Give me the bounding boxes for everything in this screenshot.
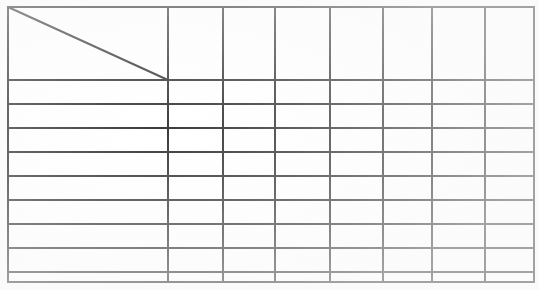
body-cell-r1-c8[interactable]: [485, 80, 534, 104]
body-cell-r3-c2[interactable]: [168, 128, 223, 152]
body-cell-r6-c2[interactable]: [168, 200, 223, 224]
corner-header-lower[interactable]: [8, 43, 168, 80]
body-cell-r8-c8[interactable]: [485, 248, 534, 272]
body-cell-r9-c1[interactable]: [8, 272, 168, 282]
body-cell-r9-c4[interactable]: [275, 272, 330, 282]
body-cell-r8-c1[interactable]: [8, 248, 168, 272]
body-cell-r8-c3[interactable]: [223, 248, 275, 272]
body-cell-r7-c2[interactable]: [168, 224, 223, 248]
body-cell-r5-c1[interactable]: [8, 176, 168, 200]
header-cell-1[interactable]: [168, 7, 223, 80]
body-cell-r8-c6[interactable]: [383, 248, 432, 272]
body-cell-r7-c7[interactable]: [432, 224, 485, 248]
body-cell-r3-c1[interactable]: [8, 128, 168, 152]
body-cell-r1-c6[interactable]: [383, 80, 432, 104]
header-cell-5[interactable]: [383, 7, 432, 80]
body-cell-r2-c7[interactable]: [432, 104, 485, 128]
body-cell-r9-c7[interactable]: [432, 272, 485, 282]
body-cell-r5-c3[interactable]: [223, 176, 275, 200]
body-cell-r4-c3[interactable]: [223, 152, 275, 176]
body-cell-r1-c1[interactable]: [8, 80, 168, 104]
body-cell-r7-c4[interactable]: [275, 224, 330, 248]
body-cell-r3-c6[interactable]: [383, 128, 432, 152]
body-cell-r3-c3[interactable]: [223, 128, 275, 152]
body-cell-r6-c4[interactable]: [275, 200, 330, 224]
body-cell-r8-c5[interactable]: [330, 248, 383, 272]
body-cell-r5-c7[interactable]: [432, 176, 485, 200]
body-cell-r2-c6[interactable]: [383, 104, 432, 128]
body-cell-r6-c1[interactable]: [8, 200, 168, 224]
body-cell-r9-c6[interactable]: [383, 272, 432, 282]
body-cell-r6-c7[interactable]: [432, 200, 485, 224]
body-cell-r6-c3[interactable]: [223, 200, 275, 224]
body-cell-r7-c3[interactable]: [223, 224, 275, 248]
body-cell-r1-c5[interactable]: [330, 80, 383, 104]
body-cell-r8-c4[interactable]: [275, 248, 330, 272]
body-cell-r2-c4[interactable]: [275, 104, 330, 128]
header-cell-6[interactable]: [432, 7, 485, 80]
header-cell-7[interactable]: [485, 7, 534, 80]
body-cell-r9-c2[interactable]: [168, 272, 223, 282]
body-cell-r6-c6[interactable]: [383, 200, 432, 224]
body-cell-r8-c2[interactable]: [168, 248, 223, 272]
body-cell-r1-c4[interactable]: [275, 80, 330, 104]
body-cell-r5-c8[interactable]: [485, 176, 534, 200]
body-cell-r4-c1[interactable]: [8, 152, 168, 176]
body-cell-r8-c7[interactable]: [432, 248, 485, 272]
body-cell-r3-c7[interactable]: [432, 128, 485, 152]
page-canvas: [0, 0, 539, 290]
body-cell-r2-c5[interactable]: [330, 104, 383, 128]
body-cell-r7-c1[interactable]: [8, 224, 168, 248]
body-cell-r5-c4[interactable]: [275, 176, 330, 200]
body-cell-r3-c5[interactable]: [330, 128, 383, 152]
body-cell-r4-c7[interactable]: [432, 152, 485, 176]
body-cell-r5-c6[interactable]: [383, 176, 432, 200]
body-cell-r3-c8[interactable]: [485, 128, 534, 152]
body-cell-r1-c7[interactable]: [432, 80, 485, 104]
body-cell-r7-c8[interactable]: [485, 224, 534, 248]
body-cell-r4-c8[interactable]: [485, 152, 534, 176]
body-cell-r2-c1[interactable]: [8, 104, 168, 128]
body-cell-r9-c5[interactable]: [330, 272, 383, 282]
body-cell-r7-c6[interactable]: [383, 224, 432, 248]
body-cell-r4-c4[interactable]: [275, 152, 330, 176]
body-cell-r5-c5[interactable]: [330, 176, 383, 200]
body-cell-r3-c4[interactable]: [275, 128, 330, 152]
body-cell-r2-c3[interactable]: [223, 104, 275, 128]
body-cell-r1-c3[interactable]: [223, 80, 275, 104]
body-cell-r9-c3[interactable]: [223, 272, 275, 282]
body-cell-r6-c5[interactable]: [330, 200, 383, 224]
body-cell-r4-c2[interactable]: [168, 152, 223, 176]
table-cell-layer: [0, 0, 539, 290]
corner-header-upper[interactable]: [8, 7, 168, 43]
body-cell-r4-c5[interactable]: [330, 152, 383, 176]
body-cell-r7-c5[interactable]: [330, 224, 383, 248]
header-cell-4[interactable]: [330, 7, 383, 80]
body-cell-r5-c2[interactable]: [168, 176, 223, 200]
header-cell-3[interactable]: [275, 7, 330, 80]
body-cell-r6-c8[interactable]: [485, 200, 534, 224]
body-cell-r2-c8[interactable]: [485, 104, 534, 128]
header-cell-2[interactable]: [223, 7, 275, 80]
body-cell-r4-c6[interactable]: [383, 152, 432, 176]
body-cell-r2-c2[interactable]: [168, 104, 223, 128]
body-cell-r1-c2[interactable]: [168, 80, 223, 104]
body-cell-r9-c8[interactable]: [485, 272, 534, 282]
